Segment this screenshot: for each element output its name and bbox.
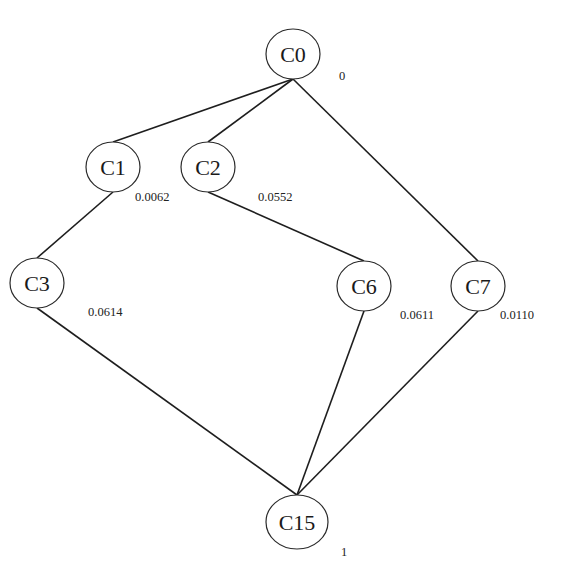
weight-label-c0: 0 (339, 69, 345, 83)
node-c0: C0 (266, 29, 320, 79)
edge-c1-c3 (37, 192, 113, 258)
weights-group: 00.00620.05520.06140.06110.01101 (88, 69, 534, 559)
edge-c3-c15 (37, 308, 297, 495)
node-label: C3 (24, 271, 50, 296)
node-c7: C7 (451, 261, 505, 311)
nodes-group: C0C1C2C3C6C7C15 (10, 29, 505, 549)
node-label: C6 (351, 274, 377, 299)
edge-c0-c1 (113, 79, 293, 142)
node-c3: C3 (10, 258, 64, 308)
edges-group (37, 79, 478, 495)
node-c6: C6 (337, 261, 391, 311)
weight-label-c6: 0.0611 (400, 308, 434, 322)
lattice-diagram: C0C1C2C3C6C7C15 00.00620.05520.06140.061… (0, 0, 567, 587)
weight-label-c2: 0.0552 (258, 190, 292, 204)
node-label: C0 (280, 42, 306, 67)
node-label: C7 (465, 274, 491, 299)
edge-c7-c15 (297, 311, 478, 495)
edge-c0-c2 (208, 79, 293, 142)
node-c1: C1 (86, 142, 140, 192)
edge-c0-c7 (293, 79, 478, 261)
weight-label-c1: 0.0062 (135, 190, 169, 204)
weight-label-c7: 0.0110 (500, 308, 534, 322)
node-c2: C2 (181, 142, 235, 192)
node-label: C1 (100, 155, 126, 180)
node-label: C15 (279, 510, 316, 535)
weight-label-c3: 0.0614 (88, 305, 123, 319)
edge-c6-c15 (297, 311, 364, 495)
node-c15: C15 (266, 495, 328, 549)
weight-label-c15: 1 (341, 545, 347, 559)
node-label: C2 (195, 155, 221, 180)
